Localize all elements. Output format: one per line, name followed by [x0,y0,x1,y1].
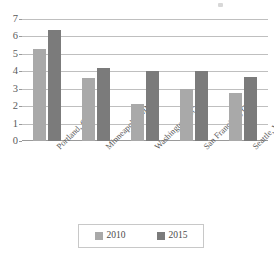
bar-group [22,19,71,141]
legend-item-2015: 2015 [157,231,188,241]
y-axis-tick-label: 7 [0,14,18,25]
bar-2015 [244,77,257,141]
y-axis-tick-label: 6 [0,31,18,42]
x-axis-tick-label: Washington, DC [153,145,159,151]
x-axis-labels: Portland, ORMinneapolis, MNWashington, D… [22,143,268,208]
y-axis-tick-label: 4 [0,66,18,77]
y-axis-tick-label: 1 [0,119,18,130]
bar-2015 [195,71,208,141]
x-axis-tick-label: Portland, OR [55,145,61,151]
plot-area [22,19,268,141]
legend-label: 2010 [107,231,126,241]
y-axis-tick-label: 5 [0,49,18,60]
legend-swatch-2010 [95,232,103,240]
y-axis-tick-label: 3 [0,84,18,95]
bar-2015 [146,71,159,141]
y-axis-tick-label: 0 [0,136,18,147]
legend-label: 2015 [169,231,188,241]
legend-item-2010: 2010 [95,231,126,241]
x-axis-tick-label: Seattle, WA [251,145,257,151]
artifact-speck [218,3,223,7]
x-axis-tick-label: Minneapolis, MN [104,145,110,151]
bar-groups [22,19,268,141]
bar-2010 [82,78,95,141]
bar-2015 [97,68,110,141]
bar-chart: 01234567 Portland, ORMinneapolis, MNWash… [0,0,274,260]
y-axis-tick-mark [19,141,22,142]
x-axis-tick-label: San Francisco, CA [202,145,208,151]
y-axis-tick-label: 2 [0,101,18,112]
chart-legend: 20102015 [78,224,204,248]
bar-2010 [33,49,46,141]
bar-2010 [180,89,193,141]
bar-2015 [48,30,61,141]
bar-2010 [131,104,144,141]
legend-swatch-2015 [157,232,165,240]
bar-2010 [229,93,242,141]
